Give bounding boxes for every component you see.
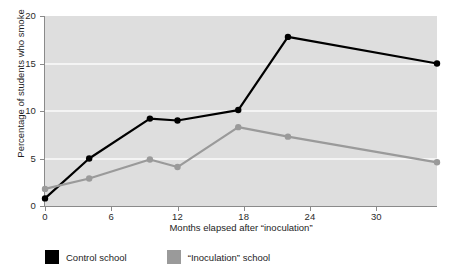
data-point [86, 155, 92, 161]
x-tick-label: 18 [232, 211, 256, 222]
chart-legend: Control school“Inoculation” school [45, 250, 270, 264]
x-tick-label: 12 [166, 211, 190, 222]
legend-swatch [45, 250, 59, 264]
x-tick-label: 6 [99, 211, 123, 222]
series-layer [45, 16, 437, 206]
legend-label: “Inoculation” school [188, 252, 270, 263]
line-chart: 05101520 0612182430 Percentage of studen… [0, 0, 449, 278]
series-line [45, 127, 437, 189]
legend-item[interactable]: Control school [45, 250, 127, 264]
data-point [86, 175, 92, 181]
x-tick-label: 30 [364, 211, 388, 222]
data-point [285, 34, 291, 40]
data-point [147, 156, 153, 162]
x-tick-label: 0 [33, 211, 57, 222]
data-point [42, 186, 48, 192]
legend-swatch [167, 250, 181, 264]
data-point [434, 60, 440, 66]
data-point [285, 133, 291, 139]
x-axis-title: Months elapsed after “inoculation” [45, 222, 437, 233]
x-tick-label: 24 [298, 211, 322, 222]
data-point [174, 164, 180, 170]
data-point [174, 117, 180, 123]
legend-item[interactable]: “Inoculation” school [167, 250, 270, 264]
legend-label: Control school [66, 252, 127, 263]
y-axis-title: Percentage of students who smoke [15, 0, 26, 174]
data-point [235, 107, 241, 113]
x-axis-line [44, 206, 437, 207]
y-tick-label: 0 [14, 200, 36, 211]
data-point [235, 124, 241, 130]
data-point [434, 159, 440, 165]
data-point [42, 195, 48, 201]
data-point [147, 115, 153, 121]
